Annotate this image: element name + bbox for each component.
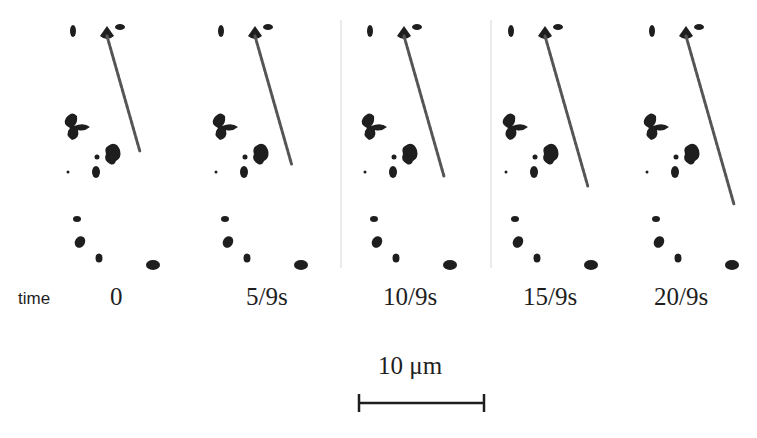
- frame-time-label: 15/9s: [523, 283, 577, 311]
- aggregate: [684, 144, 699, 165]
- scale-bar: [357, 393, 486, 413]
- particle: [221, 216, 229, 222]
- particle: [218, 25, 224, 37]
- microscopy-frames: [0, 0, 757, 280]
- particle: [674, 155, 679, 160]
- particle: [243, 155, 248, 160]
- frame-time-label: 20/9s: [654, 283, 708, 311]
- particle: [508, 25, 514, 37]
- particle: [389, 166, 397, 178]
- frame-3: [503, 24, 598, 270]
- filament: [686, 36, 734, 204]
- particle: [393, 254, 400, 263]
- particle: [530, 166, 538, 178]
- particle: [511, 216, 519, 222]
- particle: [95, 155, 100, 160]
- particle: [392, 155, 397, 160]
- particle: [652, 234, 667, 249]
- aggregate: [65, 113, 90, 140]
- particle: [215, 171, 218, 174]
- particle: [443, 260, 457, 270]
- frame-time-label: 5/9s: [246, 283, 288, 311]
- particle: [505, 171, 508, 174]
- particle: [511, 234, 526, 249]
- particle: [115, 24, 125, 30]
- particle: [263, 24, 273, 30]
- aggregate: [402, 144, 417, 165]
- frame-4: [644, 24, 739, 270]
- particle: [671, 166, 679, 178]
- aggregate: [503, 113, 528, 140]
- particle: [534, 254, 541, 263]
- scale-bar-label: 10 μm: [378, 352, 442, 380]
- particle: [294, 260, 308, 270]
- frame-1: [213, 24, 308, 270]
- particle: [646, 171, 649, 174]
- particle: [694, 24, 704, 30]
- particle: [146, 260, 160, 270]
- particle: [370, 216, 378, 222]
- aggregate: [253, 144, 268, 165]
- particle: [584, 260, 598, 270]
- particle: [73, 216, 81, 222]
- particle: [533, 155, 538, 160]
- particle: [553, 24, 563, 30]
- particle: [649, 25, 655, 37]
- time-axis-label: time: [18, 289, 50, 309]
- particle: [240, 166, 248, 178]
- aggregate: [213, 113, 238, 140]
- aggregate: [543, 144, 558, 165]
- frame-2: [362, 24, 457, 270]
- particle: [367, 25, 373, 37]
- particle: [73, 234, 88, 249]
- aggregate: [644, 113, 669, 140]
- particle: [96, 254, 103, 263]
- aggregate: [105, 144, 120, 165]
- particle: [221, 234, 236, 249]
- frame-time-label: 10/9s: [383, 283, 437, 311]
- aggregate: [362, 113, 387, 140]
- particle: [92, 166, 100, 178]
- particle: [67, 171, 70, 174]
- particle: [725, 260, 739, 270]
- particle: [370, 234, 385, 249]
- particle: [652, 216, 660, 222]
- frame-time-label: 0: [110, 283, 123, 311]
- particle: [244, 254, 251, 263]
- particle: [364, 171, 367, 174]
- particle: [675, 254, 682, 263]
- frame-0: [65, 24, 160, 270]
- particle: [412, 24, 422, 30]
- particle: [70, 25, 76, 37]
- filament: [107, 36, 140, 152]
